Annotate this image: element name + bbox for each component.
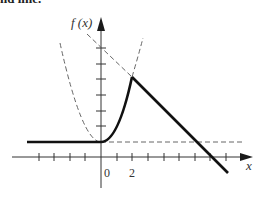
dashed-parabola-right — [132, 38, 143, 77]
linear-decreasing-segment — [132, 77, 228, 173]
y-axis-label: f (x) — [71, 15, 92, 30]
tick-label-2: 2 — [129, 166, 135, 180]
x-axis-label: x — [245, 158, 252, 173]
y-axis-arrow-icon — [97, 17, 105, 31]
dashed-parabola-left — [60, 43, 101, 142]
function-diagram: f (x) x 0 2 — [0, 0, 265, 198]
parabolic-segment — [101, 77, 132, 142]
tick-label-0: 0 — [104, 166, 110, 180]
dashed-guides — [60, 34, 242, 142]
function-graph — [27, 77, 228, 173]
dashed-line-extension — [87, 34, 132, 77]
